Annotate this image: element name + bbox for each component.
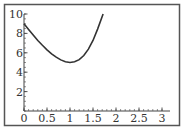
x-tick-label: 0.5 xyxy=(38,112,56,125)
line-chart: 00.511.522.53246810 xyxy=(0,0,182,130)
data-series-curve xyxy=(24,14,103,63)
y-tick-label: 4 xyxy=(16,66,23,79)
y-tick-label: 2 xyxy=(16,86,23,99)
x-tick-label: 1.5 xyxy=(84,112,102,125)
y-tick-label: 6 xyxy=(16,47,23,60)
x-tick-label: 0 xyxy=(21,112,28,125)
x-tick-label: 3 xyxy=(159,112,166,125)
y-tick-label: 8 xyxy=(16,27,23,40)
tick-labels: 00.511.522.53246810 xyxy=(9,8,166,125)
x-tick-label: 2 xyxy=(113,112,120,125)
y-tick-label: 10 xyxy=(9,8,23,21)
x-tick-label: 2.5 xyxy=(130,112,148,125)
plot-frame xyxy=(5,5,180,126)
x-tick-label: 1 xyxy=(67,112,74,125)
